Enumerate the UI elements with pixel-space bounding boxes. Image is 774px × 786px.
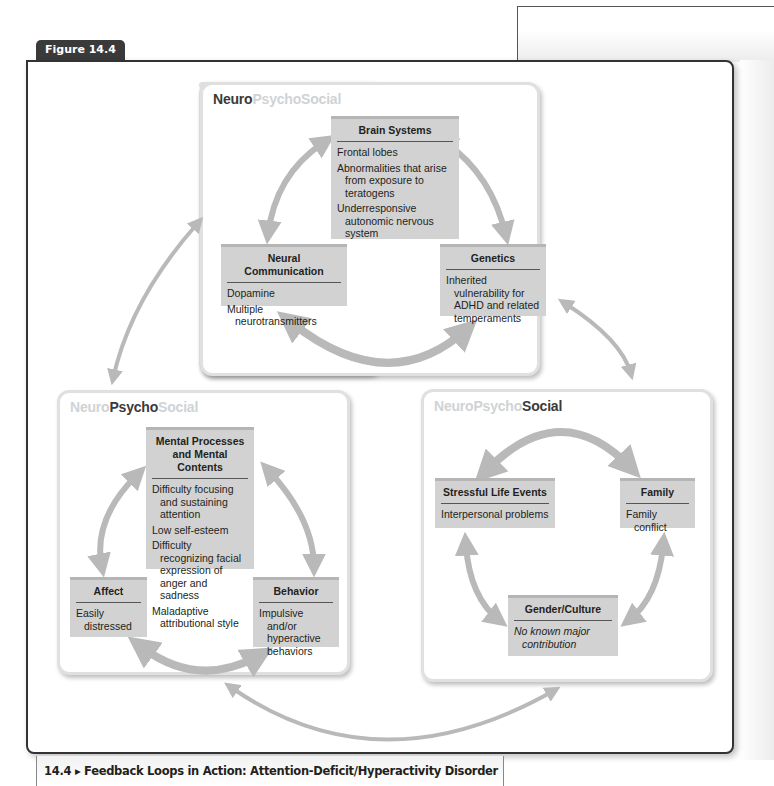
box-heading: Affect [76, 583, 141, 603]
margin-shade [740, 60, 774, 760]
box-item: Frontal lobes [337, 146, 453, 159]
title-dim: PsychoSocial [252, 91, 341, 107]
box-affect: Affect Easily distressed [70, 577, 147, 637]
box-mental-processes: Mental Processes and Mental Contents Dif… [146, 427, 254, 569]
page-rule [517, 6, 774, 7]
box-heading: Behavior [259, 583, 333, 603]
box-heading: Brain Systems [337, 122, 453, 142]
margin-shade [518, 30, 774, 62]
box-heading: Neural Communication [227, 250, 341, 283]
box-item: Low self-esteem [152, 524, 248, 537]
title-emphasis: Social [522, 398, 562, 414]
box-item: Abnormalities that arise from exposure t… [337, 162, 453, 200]
box-item: Multiple neurotransmitters [227, 303, 341, 328]
panel-title: NeuroPsychoSocial [434, 398, 562, 414]
box-item: Interpersonal problems [441, 508, 549, 521]
box-heading: Stressful Life Events [441, 484, 549, 504]
box-item: Difficulty recognizing facial expression… [152, 539, 248, 602]
box-neural-communication: Neural Communication Dopamine Multiple n… [221, 244, 347, 306]
title-dim: Social [158, 399, 198, 415]
box-item: Inherited vulnerability for ADHD and rel… [446, 274, 540, 324]
box-brain-systems: Brain Systems Frontal lobes Abnormalitie… [331, 116, 459, 239]
figure-caption: 14.4 ▸ Feedback Loops in Action: Attenti… [44, 764, 498, 778]
title-dim: NeuroPsycho [434, 398, 522, 414]
panel-title: NeuroPsychoSocial [213, 91, 341, 107]
box-behavior: Behavior Impulsive and/or hyperactive be… [253, 577, 339, 647]
box-heading: Family [626, 484, 689, 504]
panel-title: NeuroPsychoSocial [70, 399, 198, 415]
box-heading: Genetics [446, 250, 540, 270]
box-item: Difficulty focusing and sustaining atten… [152, 483, 248, 521]
box-family: Family Family conflict [620, 478, 695, 528]
box-gender-culture: Gender/Culture No known major contributi… [508, 595, 618, 656]
box-heading: Mental Processes and Mental Contents [152, 433, 248, 479]
title-dim: Neuro [70, 399, 109, 415]
box-stressful-life-events: Stressful Life Events Interpersonal prob… [435, 478, 555, 528]
box-item: No known major contribution [514, 625, 612, 650]
box-item: Family conflict [626, 508, 689, 533]
box-item: Impulsive and/or hyperactive behaviors [259, 607, 333, 657]
box-item: Easily distressed [76, 607, 141, 632]
box-item: Underresponsive autonomic nervous system [337, 202, 453, 240]
box-genetics: Genetics Inherited vulnerability for ADH… [440, 244, 546, 316]
title-emphasis: Neuro [213, 91, 252, 107]
box-item: Maladaptive attributional style [152, 605, 248, 630]
figure-tab: Figure 14.4 [36, 40, 125, 60]
box-heading: Gender/Culture [514, 601, 612, 621]
box-item: Dopamine [227, 287, 341, 300]
title-emphasis: Psycho [109, 399, 158, 415]
